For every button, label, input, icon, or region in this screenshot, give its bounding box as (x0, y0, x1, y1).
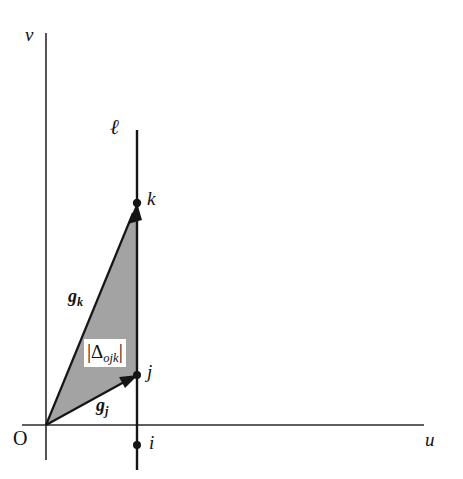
vector-label-gk-sub: k (77, 295, 83, 309)
origin-label: O (13, 428, 27, 448)
area-label-delta-symbol: Δ (91, 341, 103, 362)
vector-label-gj-base: g (96, 395, 105, 415)
vector-label-gj-sub: j (105, 404, 108, 418)
line-ell-label: ℓ (110, 117, 119, 138)
area-label-right-bar: | (119, 340, 123, 362)
point-marker-k (133, 199, 141, 207)
point-label-i: i (149, 433, 154, 452)
v-axis-label: v (25, 25, 33, 44)
vector-label-gj: gj (96, 396, 108, 417)
point-label-j: j (147, 362, 152, 381)
vector-label-gk: gk (68, 287, 83, 308)
figure-canvas (0, 0, 463, 479)
area-label-subscript: ojk (103, 351, 118, 365)
point-marker-i (133, 441, 141, 449)
vector-label-gk-base: g (68, 286, 77, 306)
triangle-area-label: |Δojk| (84, 339, 126, 367)
point-marker-j (133, 371, 141, 379)
geometry-figure: v u O ℓ k j i gk gj |Δojk| (0, 0, 463, 479)
u-axis-label: u (425, 430, 435, 449)
point-label-k: k (147, 189, 155, 208)
